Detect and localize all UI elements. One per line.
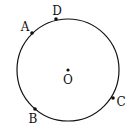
point-b <box>33 107 37 111</box>
circle-diagram: O DABC <box>0 0 129 128</box>
points-layer: DABC <box>20 4 126 126</box>
point-label-b: B <box>29 112 38 126</box>
point-label-c: C <box>116 95 125 109</box>
point-c <box>111 96 115 100</box>
point-label-a: A <box>20 20 30 34</box>
point-label-d: D <box>52 4 62 18</box>
center-label: O <box>63 73 73 87</box>
center-point <box>66 68 69 71</box>
point-a <box>30 31 34 35</box>
